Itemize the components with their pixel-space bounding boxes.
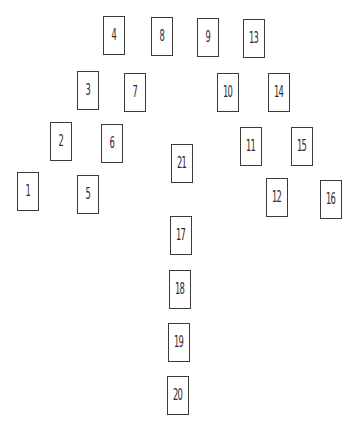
card-position-8: 8 [151, 17, 173, 56]
card-number: 7 [133, 85, 138, 100]
card-number: 11 [246, 139, 255, 154]
card-position-11: 11 [240, 127, 262, 166]
card-position-7: 7 [124, 73, 146, 112]
card-number: 9 [206, 30, 211, 45]
card-number: 17 [176, 228, 185, 243]
card-number: 19 [174, 335, 183, 350]
card-number: 10 [223, 85, 232, 100]
card-number: 18 [175, 282, 184, 297]
card-position-16: 16 [320, 180, 342, 219]
card-position-4: 4 [103, 16, 125, 55]
card-number: 2 [59, 134, 64, 149]
card-number: 12 [272, 190, 281, 205]
card-number: 5 [86, 187, 91, 202]
card-number: 6 [110, 136, 115, 151]
card-position-15: 15 [291, 127, 313, 166]
card-number: 1 [26, 184, 31, 199]
card-number: 16 [326, 192, 335, 207]
card-position-2: 2 [50, 122, 72, 161]
card-position-13: 13 [243, 19, 265, 58]
card-number: 13 [249, 31, 258, 46]
card-position-3: 3 [77, 71, 99, 110]
card-position-21: 21 [171, 144, 193, 183]
card-number: 15 [297, 139, 306, 154]
card-position-5: 5 [77, 175, 99, 214]
card-position-17: 17 [170, 216, 192, 255]
card-position-18: 18 [169, 270, 191, 309]
card-position-1: 1 [17, 172, 39, 211]
card-position-10: 10 [217, 73, 239, 112]
card-position-9: 9 [197, 18, 219, 57]
card-position-6: 6 [101, 124, 123, 163]
card-number: 3 [86, 83, 91, 98]
card-position-14: 14 [268, 73, 290, 112]
card-number: 21 [177, 156, 186, 171]
card-number: 4 [112, 28, 117, 43]
card-number: 8 [160, 29, 165, 44]
card-position-20: 20 [167, 376, 189, 415]
card-number: 14 [274, 85, 283, 100]
card-number: 20 [173, 388, 182, 403]
card-position-12: 12 [266, 178, 288, 217]
card-position-19: 19 [168, 323, 190, 362]
